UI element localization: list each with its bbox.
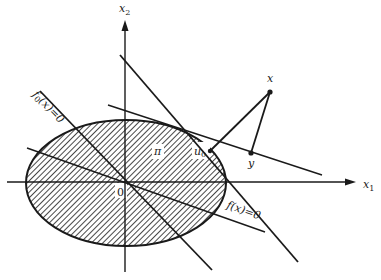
x1-arrow-icon bbox=[345, 179, 356, 186]
f-constraint-label: f(x)=0 bbox=[224, 198, 262, 222]
point-u0 bbox=[208, 149, 212, 153]
point-x bbox=[267, 89, 272, 94]
x-point-label: x bbox=[267, 72, 274, 85]
origin-label: 0 bbox=[117, 186, 124, 199]
f0-constraint-label: f0(x)=0 bbox=[28, 87, 67, 126]
optimization-diagram: x2 x1 0 π u0 x y f0(x)=0 f(x)=0 bbox=[0, 0, 381, 280]
x2-axis-label: x2 bbox=[119, 2, 130, 17]
y-point-label: y bbox=[247, 157, 255, 170]
x2-arrow-icon bbox=[122, 20, 129, 31]
point-y bbox=[248, 150, 253, 155]
x1-axis-label: x1 bbox=[363, 178, 374, 193]
region-label-pi: π bbox=[153, 145, 162, 158]
